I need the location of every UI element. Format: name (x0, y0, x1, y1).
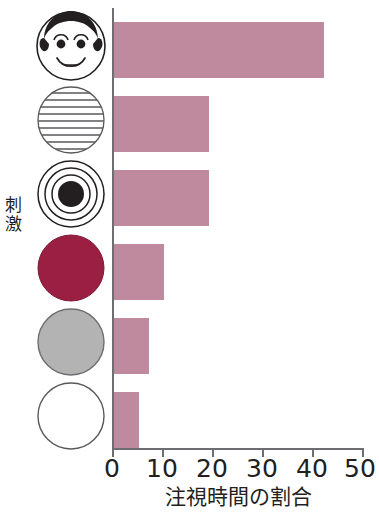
category-icon-gray-circle (33, 304, 109, 380)
category-icon-bullseye (33, 156, 109, 232)
bullseye-circle-icon (33, 156, 109, 232)
y-axis-title: 刺 激 (2, 196, 24, 234)
solid-red-circle-icon (33, 230, 109, 306)
x-axis-title: 注視時間の割合 (112, 485, 364, 509)
x-tick-label-10: 10 (142, 455, 182, 483)
face-icon (33, 8, 109, 84)
x-tick-label-40: 40 (292, 455, 332, 483)
category-icon-column (33, 8, 109, 448)
y-axis-title-char-2: 激 (2, 215, 24, 234)
x-axis-line (112, 448, 364, 450)
y-axis-title-char-1: 刺 (2, 196, 24, 215)
x-tick-label-0: 0 (92, 455, 132, 483)
x-tick-label-20: 20 (192, 455, 232, 483)
plot-area (112, 8, 373, 448)
x-tick-label-50: 50 (340, 455, 379, 483)
bar-face (114, 22, 324, 78)
bar-stripes (114, 96, 209, 152)
bar-white-circle (114, 392, 139, 448)
bar-gray-circle (114, 318, 149, 374)
x-tick-label-30: 30 (242, 455, 282, 483)
category-icon-stripes (33, 82, 109, 158)
category-icon-face (33, 8, 109, 84)
category-icon-white-circle (33, 378, 109, 454)
solid-gray-circle-icon (33, 304, 109, 380)
bar-red-circle (114, 244, 164, 300)
horizontal-stripes-circle-icon (33, 82, 109, 158)
bar-bullseye (114, 170, 209, 226)
empty-white-circle-icon (33, 378, 109, 454)
category-icon-red-circle (33, 230, 109, 306)
